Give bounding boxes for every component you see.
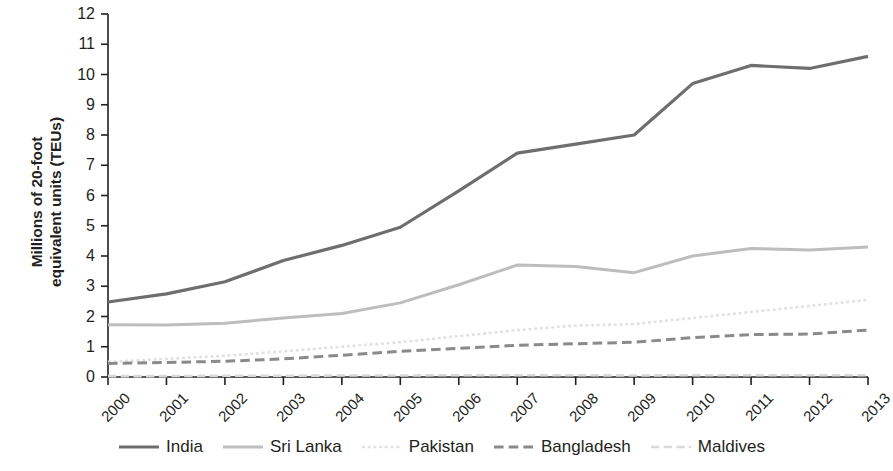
legend-swatch-pakistan <box>362 442 402 452</box>
legend-item-pakistan[interactable]: Pakistan <box>362 437 474 457</box>
series-lines <box>108 56 868 376</box>
legend-swatch-india <box>119 442 159 452</box>
legend-swatch-bangladesh <box>494 442 534 452</box>
y-tick-label: 7 <box>61 157 95 173</box>
y-tick-label: 1 <box>61 339 95 355</box>
legend-label-maldives: Maldives <box>698 437 765 457</box>
legend-label-sri-lanka: Sri Lanka <box>270 437 342 457</box>
legend-item-maldives[interactable]: Maldives <box>651 437 765 457</box>
y-tick-label: 10 <box>61 67 95 83</box>
legend-label-bangladesh: Bangladesh <box>541 437 631 457</box>
y-tick-label: 6 <box>61 188 95 204</box>
legend-label-india: India <box>166 437 203 457</box>
legend-swatch-sri-lanka <box>223 442 263 452</box>
series-line-india <box>108 56 868 302</box>
legend-item-bangladesh[interactable]: Bangladesh <box>494 437 631 457</box>
y-tick-label: 3 <box>61 278 95 294</box>
legend-item-sri-lanka[interactable]: Sri Lanka <box>223 437 342 457</box>
axes <box>101 14 868 385</box>
y-tick-label: 9 <box>61 97 95 113</box>
y-tick-label: 4 <box>61 248 95 264</box>
y-tick-label: 12 <box>61 6 95 22</box>
y-tick-label: 8 <box>61 127 95 143</box>
legend-label-pakistan: Pakistan <box>409 437 474 457</box>
y-tick-label: 5 <box>61 218 95 234</box>
y-tick-label: 0 <box>61 369 95 385</box>
legend-item-india[interactable]: India <box>119 437 203 457</box>
series-line-pakistan <box>108 300 868 362</box>
series-line-bangladesh <box>108 330 868 363</box>
y-tick-label: 2 <box>61 309 95 325</box>
series-line-sri-lanka <box>108 247 868 325</box>
y-tick-label: 11 <box>61 36 95 52</box>
legend-swatch-maldives <box>651 442 691 452</box>
chart-legend: IndiaSri LankaPakistanBangladeshMaldives <box>0 437 884 457</box>
series-line-maldives <box>108 375 868 376</box>
